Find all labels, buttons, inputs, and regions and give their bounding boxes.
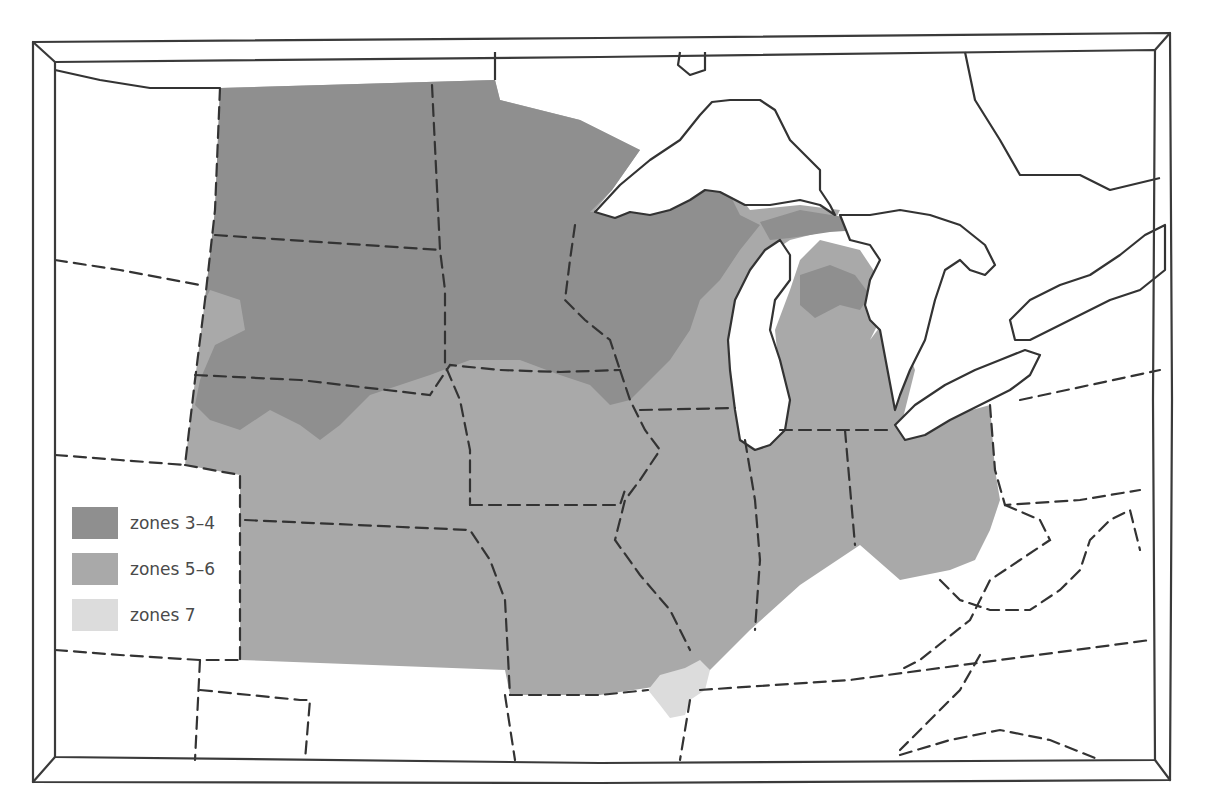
map-legend: zones 3–4 zones 5–6 zones 7: [72, 500, 237, 638]
hardiness-zone-map: [0, 0, 1205, 801]
legend-swatch: [72, 599, 118, 631]
legend-item-zones-5-6: zones 5–6: [72, 546, 237, 592]
legend-swatch: [72, 507, 118, 539]
lake-ontario: [1010, 225, 1165, 340]
legend-item-zones-7: zones 7: [72, 592, 237, 638]
legend-item-zones-3-4: zones 3–4: [72, 500, 237, 546]
legend-label: zones 3–4: [130, 513, 215, 533]
legend-label: zones 7: [130, 605, 196, 625]
legend-label: zones 5–6: [130, 559, 215, 579]
legend-swatch: [72, 553, 118, 585]
